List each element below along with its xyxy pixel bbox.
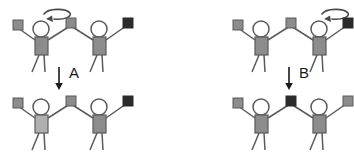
actor-leg-right (102, 55, 103, 72)
object-square-right-outer (123, 96, 133, 106)
actor-torso (93, 115, 106, 133)
transition-a-label: A (69, 65, 79, 80)
transition-a: A (52, 66, 92, 92)
object-square-right-outer (123, 18, 133, 28)
actor-leg-right (322, 133, 323, 150)
actor-head (91, 99, 107, 115)
actor-right (71, 21, 126, 72)
actor-leg-right (102, 133, 103, 150)
actor-torso (93, 37, 106, 55)
transition-b: B (282, 66, 322, 92)
actor-right (71, 99, 126, 150)
panel-bottom-right (228, 88, 354, 153)
panel-bottom-left-graphic (8, 88, 144, 153)
actor-left (238, 99, 290, 150)
actor-head (33, 21, 49, 37)
actor-right (291, 99, 346, 150)
actor-left (18, 99, 70, 150)
actor-torso (35, 37, 48, 55)
actor-torso (313, 37, 326, 55)
actor-leg-right (264, 133, 265, 150)
actor-leg-right (44, 55, 45, 72)
actor-leg-left (32, 55, 39, 72)
actor-head (33, 99, 49, 115)
object-square-center (286, 18, 296, 28)
arrow-down-icon (282, 66, 298, 92)
actor-leg-left (252, 55, 259, 72)
actor-head (311, 21, 327, 37)
panel-bottom-right-graphic (228, 88, 354, 153)
object-square-center (286, 96, 296, 106)
arrow-down-icon (52, 66, 68, 92)
actor-leg-left (252, 133, 259, 150)
actor-torso (255, 115, 268, 133)
object-square-left-outer (233, 20, 243, 30)
object-square-right-outer (343, 18, 353, 28)
actor-torso (255, 37, 268, 55)
actor-leg-left (32, 133, 39, 150)
object-square-left-outer (13, 98, 23, 108)
actor-leg-right (44, 133, 45, 150)
actor-torso (35, 115, 48, 133)
transition-b-label: B (299, 65, 309, 80)
actor-left (238, 21, 290, 72)
object-square-left-outer (13, 20, 23, 30)
actor-head (91, 21, 107, 37)
object-square-center (66, 18, 76, 28)
actor-leg-left (310, 133, 317, 150)
object-square-left-outer (233, 98, 243, 108)
panel-top-right (228, 2, 354, 76)
object-square-center (66, 96, 76, 106)
actor-head (253, 99, 269, 115)
diagram-stage: A B (0, 0, 354, 153)
actor-left (18, 21, 70, 72)
object-square-right-outer (343, 96, 353, 106)
actor-head (253, 21, 269, 37)
actor-leg-right (264, 55, 265, 72)
actor-leg-right (322, 55, 323, 72)
panel-bottom-left (8, 88, 144, 153)
actor-torso (313, 115, 326, 133)
panel-top-right-graphic (228, 2, 354, 76)
actor-leg-left (90, 133, 97, 150)
actor-head (311, 99, 327, 115)
